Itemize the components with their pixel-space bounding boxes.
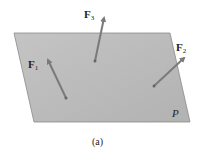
force-diagram: F1 F2 F3 P (a) xyxy=(0,0,199,156)
force-f2-label: F2 xyxy=(176,41,187,55)
force-f3-label: F3 xyxy=(84,8,95,22)
figure-caption: (a) xyxy=(92,136,103,148)
plane-label: P xyxy=(171,107,179,119)
